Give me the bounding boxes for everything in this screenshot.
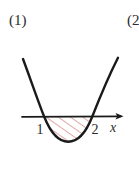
x-tick-label-1: 1	[37, 122, 44, 137]
x-axis-label: x	[109, 120, 117, 135]
x-tick-label-2: 2	[92, 122, 99, 137]
x-axis-line	[22, 116, 121, 117]
parabola-graph: 1 2 x	[0, 0, 139, 176]
figure-root: (1) (2 1 2 x	[0, 0, 139, 176]
